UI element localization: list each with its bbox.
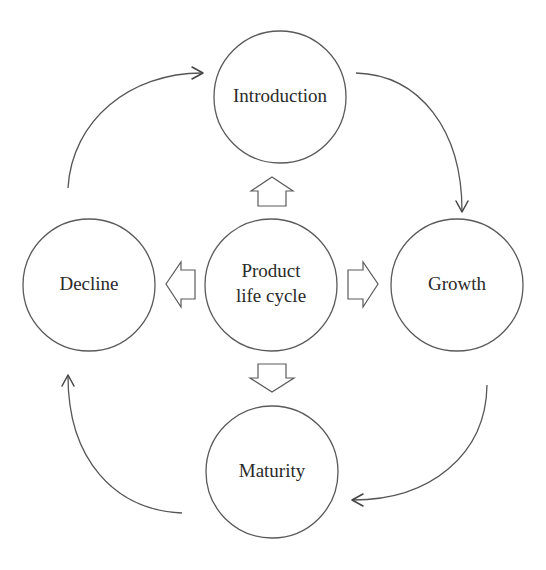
block-arrow-up-icon bbox=[251, 177, 293, 206]
block-arrow-right-icon bbox=[348, 262, 378, 307]
cycle-arc bbox=[68, 376, 182, 513]
cycle-arc bbox=[68, 73, 202, 188]
center-node: Product life cycle bbox=[205, 219, 337, 351]
cycle-arc bbox=[356, 73, 462, 211]
block-arrow-left-icon bbox=[166, 262, 195, 307]
cycle-arrow-maturity-to-decline bbox=[62, 375, 182, 513]
product-life-cycle-diagram: Introduction Growth Maturity Decline Pro… bbox=[0, 0, 546, 570]
stage-label-maturity: Maturity bbox=[239, 460, 306, 481]
stage-node-introduction: Introduction bbox=[214, 31, 346, 163]
cycle-arrow-decline-to-introduction bbox=[68, 67, 203, 188]
center-label-line-2: life cycle bbox=[236, 285, 306, 306]
stage-node-maturity: Maturity bbox=[206, 406, 338, 538]
stage-label-introduction: Introduction bbox=[233, 85, 327, 106]
cycle-arrow-introduction-to-growth bbox=[356, 73, 468, 212]
block-arrow-down-icon bbox=[250, 364, 294, 392]
stage-label-decline: Decline bbox=[59, 273, 118, 294]
stage-node-decline: Decline bbox=[23, 219, 155, 351]
cycle-arc bbox=[353, 385, 487, 500]
stage-label-growth: Growth bbox=[428, 273, 487, 294]
center-label-line-1: Product bbox=[241, 260, 301, 281]
cycle-arrow-growth-to-maturity bbox=[352, 385, 487, 506]
stage-node-growth: Growth bbox=[391, 219, 523, 351]
